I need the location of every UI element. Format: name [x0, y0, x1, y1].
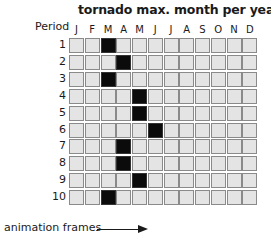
- month-cell: [164, 156, 179, 171]
- period-row-label: 4: [36, 89, 66, 102]
- max-month-cell: [101, 38, 116, 53]
- month-cell: [179, 156, 194, 171]
- month-cell: [132, 123, 147, 138]
- month-cell: [179, 173, 194, 188]
- month-cell: [211, 173, 226, 188]
- month-cell: [69, 173, 84, 188]
- month-cell: [227, 173, 242, 188]
- month-cell: [227, 123, 242, 138]
- month-cell: [179, 106, 194, 121]
- month-cell: [164, 72, 179, 87]
- month-cell: [195, 190, 210, 205]
- month-cell: [116, 106, 131, 121]
- month-cell: [132, 55, 147, 70]
- month-cell: [148, 139, 163, 154]
- month-cell: [242, 156, 257, 171]
- month-cell: [148, 156, 163, 171]
- month-label: M: [101, 24, 116, 35]
- month-cell: [164, 106, 179, 121]
- month-cell: [164, 190, 179, 205]
- period-row-label: 5: [36, 106, 66, 119]
- period-row-label: 10: [36, 190, 66, 203]
- month-cell: [242, 55, 257, 70]
- month-cell: [85, 173, 100, 188]
- month-label: F: [85, 24, 100, 35]
- month-cell: [227, 38, 242, 53]
- month-cell: [101, 173, 116, 188]
- month-cell: [101, 106, 116, 121]
- month-cell: [164, 123, 179, 138]
- month-cell: [227, 156, 242, 171]
- month-cell: [195, 38, 210, 53]
- month-cell: [179, 123, 194, 138]
- month-cell: [211, 55, 226, 70]
- month-cell: [242, 139, 257, 154]
- month-cell: [148, 173, 163, 188]
- month-cell: [195, 156, 210, 171]
- max-month-cell: [116, 55, 131, 70]
- month-cell: [164, 55, 179, 70]
- month-cell: [211, 156, 226, 171]
- period-row-label: 1: [36, 38, 66, 51]
- max-month-cell: [101, 72, 116, 87]
- month-cell: [164, 139, 179, 154]
- month-cell: [179, 55, 194, 70]
- month-cell: [85, 89, 100, 104]
- month-cell: [195, 139, 210, 154]
- month-label: J: [164, 24, 179, 35]
- month-cell: [85, 55, 100, 70]
- max-month-cell: [132, 173, 147, 188]
- month-cell: [164, 173, 179, 188]
- month-cell: [242, 106, 257, 121]
- month-cell: [69, 106, 84, 121]
- period-row-label: 9: [36, 173, 66, 186]
- month-cell: [101, 156, 116, 171]
- period-row-label: 8: [36, 156, 66, 169]
- month-cell: [148, 38, 163, 53]
- month-cell: [242, 89, 257, 104]
- month-cell: [227, 89, 242, 104]
- period-axis-label: Period: [35, 20, 69, 33]
- arrow-head-icon: [138, 225, 148, 233]
- month-label: M: [132, 24, 147, 35]
- month-cell: [195, 123, 210, 138]
- month-label: D: [242, 24, 257, 35]
- animation-frames-label: animation frames: [4, 221, 101, 234]
- month-cell: [148, 55, 163, 70]
- max-month-cell: [132, 89, 147, 104]
- month-cell: [242, 123, 257, 138]
- month-cell: [101, 89, 116, 104]
- month-cell: [85, 106, 100, 121]
- max-month-cell: [116, 156, 131, 171]
- period-row-label: 3: [36, 72, 66, 85]
- month-cell: [211, 123, 226, 138]
- month-label: N: [227, 24, 242, 35]
- month-cell: [227, 55, 242, 70]
- month-cell: [69, 190, 84, 205]
- month-cell: [148, 106, 163, 121]
- month-cell: [164, 38, 179, 53]
- month-cell: [211, 89, 226, 104]
- month-cell: [101, 55, 116, 70]
- month-cell: [179, 190, 194, 205]
- month-cell: [69, 72, 84, 87]
- month-cell: [85, 156, 100, 171]
- month-cell: [195, 89, 210, 104]
- month-label: S: [195, 24, 210, 35]
- month-cell: [69, 55, 84, 70]
- month-cell: [85, 139, 100, 154]
- month-cell: [69, 89, 84, 104]
- month-cell: [116, 123, 131, 138]
- max-month-cell: [148, 123, 163, 138]
- month-cell: [101, 123, 116, 138]
- month-label: A: [116, 24, 131, 35]
- month-cell: [164, 89, 179, 104]
- month-cell: [242, 173, 257, 188]
- month-cell: [85, 38, 100, 53]
- month-cell: [132, 156, 147, 171]
- month-cell: [179, 38, 194, 53]
- month-cell: [116, 38, 131, 53]
- max-month-cell: [116, 139, 131, 154]
- period-row-label: 6: [36, 123, 66, 136]
- month-cell: [85, 123, 100, 138]
